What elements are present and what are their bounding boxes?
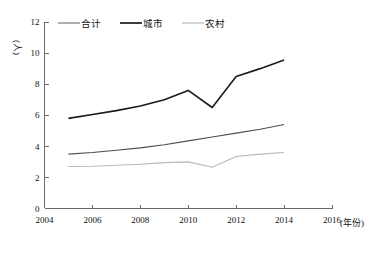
chart-canvas: 024681012 2004200620082010201220142016 合…: [0, 0, 384, 253]
series-line: [68, 125, 284, 155]
y-tick-label: 12: [31, 17, 40, 27]
series-line: [68, 153, 284, 168]
legend-label: 农村: [205, 18, 225, 29]
x-tick-label: 2012: [227, 215, 245, 225]
x-tick-label: 2016: [323, 215, 342, 225]
chart-legend: 合计城市农村: [58, 18, 225, 29]
y-tick-label: 8: [35, 79, 40, 89]
y-tick-label: 6: [35, 110, 40, 120]
x-tick-label: 2004: [36, 215, 55, 225]
line-chart: 024681012 2004200620082010201220142016 合…: [0, 0, 384, 253]
data-series-group: [68, 60, 284, 167]
y-tick-label: 4: [35, 142, 40, 152]
y-tick-label: 0: [35, 204, 40, 214]
y-tick-label: 2: [35, 173, 40, 183]
legend-label: 合计: [81, 18, 101, 29]
x-axis-ticks: 2004200620082010201220142016: [36, 205, 342, 225]
y-tick-label: 10: [31, 48, 41, 58]
x-tick-label: 2010: [179, 215, 198, 225]
y-axis-unit-label: (人): [12, 40, 22, 55]
y-axis-ticks: 024681012: [31, 17, 49, 214]
x-tick-label: 2006: [83, 215, 102, 225]
x-tick-label: 2014: [275, 215, 294, 225]
series-line: [68, 60, 284, 118]
x-axis-unit-label: (年份): [340, 217, 364, 228]
legend-label: 城市: [143, 18, 163, 29]
x-tick-label: 2008: [131, 215, 150, 225]
